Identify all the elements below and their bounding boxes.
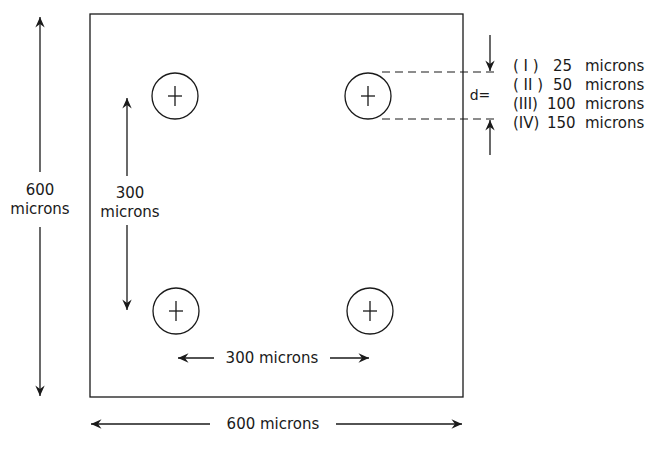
vertical-spacing-unit: microns bbox=[100, 203, 160, 221]
svg-text:25: 25 bbox=[553, 57, 572, 75]
svg-text:(IV): (IV) bbox=[513, 114, 539, 132]
width-label: 600 microns bbox=[227, 415, 320, 433]
height-label-unit: microns bbox=[10, 200, 70, 218]
diameter-option-1: ( I ) 25 microns bbox=[513, 57, 645, 75]
hole-top-right bbox=[345, 73, 391, 119]
hole-bottom-left bbox=[153, 288, 199, 334]
svg-text:50: 50 bbox=[553, 76, 572, 94]
svg-text:( I ): ( I ) bbox=[513, 57, 539, 75]
svg-text:microns: microns bbox=[585, 114, 645, 132]
svg-text:( II ): ( II ) bbox=[513, 76, 543, 94]
hole-top-left bbox=[152, 73, 198, 119]
diameter-option-3: (III) 100 microns bbox=[513, 95, 645, 113]
height-label-value: 600 bbox=[26, 181, 55, 199]
diagram-canvas: 600 microns 300 microns 300 microns 600 … bbox=[0, 0, 648, 449]
hole-bottom-right bbox=[347, 288, 393, 334]
vertical-spacing-value: 300 bbox=[116, 184, 145, 202]
svg-text:100: 100 bbox=[547, 95, 576, 113]
diameter-option-4: (IV) 150 microns bbox=[513, 114, 645, 132]
svg-text:(III): (III) bbox=[513, 95, 538, 113]
diameter-label: d= bbox=[470, 87, 491, 103]
svg-text:microns: microns bbox=[585, 95, 645, 113]
diameter-option-2: ( II ) 50 microns bbox=[513, 76, 645, 94]
svg-text:microns: microns bbox=[585, 76, 645, 94]
horizontal-spacing-label: 300 microns bbox=[226, 349, 319, 367]
svg-text:150: 150 bbox=[547, 114, 576, 132]
svg-text:microns: microns bbox=[585, 57, 645, 75]
